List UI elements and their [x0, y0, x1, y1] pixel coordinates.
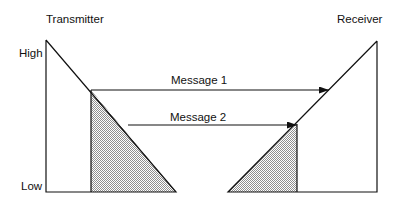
message-2: Message 2 [128, 111, 297, 125]
receiver-triangle-outline [228, 41, 377, 192]
diagram-canvas: Transmitter Receiver High Low Message 1 … [0, 0, 397, 203]
transmitter-shape [46, 40, 176, 192]
message-1-label: Message 1 [171, 74, 227, 86]
receiver-shape [228, 41, 377, 192]
message-2-label: Message 2 [170, 111, 226, 123]
low-label: Low [21, 180, 43, 192]
message-1: Message 1 [91, 74, 329, 90]
transmitter-label: Transmitter [46, 13, 104, 25]
high-label: High [19, 47, 43, 59]
receiver-label: Receiver [337, 13, 383, 25]
